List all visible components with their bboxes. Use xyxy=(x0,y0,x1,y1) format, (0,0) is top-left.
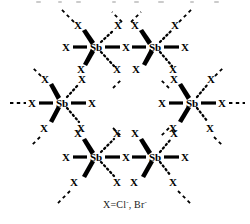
ext-midright-down xyxy=(214,137,222,145)
ext-inner-tl-down xyxy=(113,80,121,88)
atom-x-bl-upper-right: X xyxy=(113,127,121,139)
atom-x-ml-upper-right: X xyxy=(78,73,86,85)
atom-x-tl-lower-right: X xyxy=(113,63,121,75)
bond-hash-tl-ur xyxy=(101,30,114,42)
legend-caption: X=Cl-, Br- xyxy=(0,199,250,210)
ext-top-left-up xyxy=(60,8,74,22)
bond-wedge-bl-ll xyxy=(82,160,95,178)
atom-x-mid-left-terminal: X xyxy=(28,97,36,109)
atom-x-tr-lower-left: X xyxy=(132,63,140,75)
atom-sb-top-left: Sb xyxy=(90,41,102,53)
ext-midright-up xyxy=(215,68,223,76)
ext-midleft-up xyxy=(33,68,41,76)
atom-x-top-right-terminal: X xyxy=(181,41,189,53)
atom-x-mid-right-inner: X xyxy=(158,97,166,109)
legend-prefix: X=Cl xyxy=(103,199,126,210)
atom-x-bot-left-terminal: X xyxy=(62,151,70,163)
atom-x-bl-upper-left: X xyxy=(74,127,82,139)
atom-x-mr-lower-right: X xyxy=(206,122,214,134)
ext-inner-tr-down xyxy=(161,80,169,88)
bond-hash-ml-lr xyxy=(67,108,79,122)
atom-sb-top-right: Sb xyxy=(149,41,161,53)
atom-x-ml-upper-left: X xyxy=(41,73,49,85)
atom-x-mr-upper-left: X xyxy=(170,73,178,85)
ext-top-right-up xyxy=(179,8,193,22)
bond-hash-mr-ur xyxy=(197,84,208,97)
atom-x-bot-bridge: X xyxy=(122,151,130,163)
bond-hash-br-lr xyxy=(160,162,171,176)
ext-midleft-down xyxy=(32,137,40,145)
atom-x-tl-upper-right: X xyxy=(114,19,122,31)
bond-wedge-br-ll xyxy=(141,160,154,178)
atom-sb-bottom-left: Sb xyxy=(90,151,102,163)
atom-sb-bottom-right: Sb xyxy=(149,151,161,163)
atom-x-br-lower-right: X xyxy=(169,176,177,188)
atom-x-bl-lower-right: X xyxy=(113,176,121,188)
atom-x-br-upper-left: X xyxy=(131,127,139,139)
chemical-structure-figure: Sb Sb Sb Sb Sb Sb X X X X X X X X X X X … xyxy=(0,0,250,224)
bond-hash-ml-ur xyxy=(67,84,79,97)
atom-x-br-upper-right: X xyxy=(170,127,178,139)
legend-charge-bromide: - xyxy=(144,198,147,206)
atom-x-bot-right-terminal: X xyxy=(181,151,189,163)
atom-x-tr-upper-right: X xyxy=(171,19,179,31)
atom-x-mid-right-terminal: X xyxy=(218,97,226,109)
atom-x-bl-lower-left: X xyxy=(70,176,78,188)
bond-hash-tr-ur xyxy=(160,30,172,42)
lattice-extension-lines xyxy=(10,8,245,205)
atom-x-tl-upper-left: X xyxy=(74,19,82,31)
atom-x-mr-upper-right: X xyxy=(207,73,215,85)
bond-hash-bl-lr xyxy=(101,162,114,176)
atom-sb-mid-right: Sb xyxy=(186,97,198,109)
atom-x-br-lower-left: X xyxy=(130,176,138,188)
atom-x-tr-upper-left: X xyxy=(131,19,139,31)
bond-wedge-ml-ll xyxy=(49,106,61,123)
legend-middle: , Br xyxy=(129,199,145,210)
lattice-diagram: Sb Sb Sb Sb Sb Sb X X X X X X X X X X X … xyxy=(0,0,250,224)
atom-x-top-bridge: X xyxy=(122,41,130,53)
bond-wedge-mr-ll xyxy=(178,106,191,123)
ext-inner-br-up xyxy=(161,128,169,136)
atom-x-ml-lower-left: X xyxy=(40,122,48,134)
bond-hash-bl-ur xyxy=(101,139,114,152)
bond-hash-br-ur xyxy=(160,139,171,152)
bond-hash-mr-lr xyxy=(197,108,208,122)
atom-x-mid-left-inner: X xyxy=(88,97,96,109)
atom-sb-mid-left: Sb xyxy=(56,97,68,109)
atom-label-layer: Sb Sb Sb Sb Sb Sb X X X X X X X X X X X … xyxy=(28,19,226,188)
bond-layer: Sb Sb Sb Sb Sb Sb X X X X X X X X X X X … xyxy=(10,8,245,205)
atom-x-top-left-terminal: X xyxy=(62,41,70,53)
